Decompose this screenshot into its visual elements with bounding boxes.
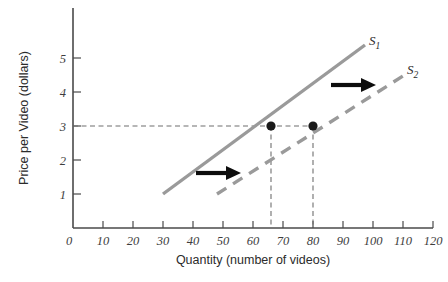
guide-lines-group xyxy=(73,126,313,228)
x-tick-label: 100 xyxy=(364,234,384,248)
point-on-s2 xyxy=(308,121,317,130)
upper-shift-arrow xyxy=(331,78,376,92)
x-axis-title: Quantity (number of videos) xyxy=(176,253,330,267)
y-tick-label: 5 xyxy=(60,52,66,66)
x-tick-label: 0 xyxy=(66,234,73,248)
y-tick-label: 1 xyxy=(60,188,66,202)
x-tick-label: 90 xyxy=(337,234,350,248)
x-tick-label: 40 xyxy=(187,234,200,248)
x-tick-label: 120 xyxy=(424,234,444,248)
lower-shift-arrow xyxy=(196,166,241,180)
curve-label-s2: S2 xyxy=(407,62,419,80)
x-axis-ticks xyxy=(103,221,433,228)
y-axis-title: Price per Video (dollars) xyxy=(17,51,31,185)
point-on-s1 xyxy=(266,121,275,130)
x-tick-label: 50 xyxy=(217,234,230,248)
x-axis-tick-labels: 0 10 20 30 40 50 60 70 80 90 100 110 120 xyxy=(66,234,443,248)
x-tick-label: 110 xyxy=(394,234,413,248)
x-tick-label: 20 xyxy=(127,234,140,248)
x-tick-label: 10 xyxy=(97,234,110,248)
x-tick-label: 60 xyxy=(247,234,260,248)
x-tick-label: 80 xyxy=(307,234,320,248)
y-tick-label: 2 xyxy=(60,154,66,168)
y-tick-label: 4 xyxy=(60,86,66,100)
s1-label-subscript: 1 xyxy=(376,41,381,51)
y-axis-tick-labels: 1 2 3 4 5 xyxy=(59,52,66,202)
x-tick-label: 70 xyxy=(277,234,290,248)
x-tick-label: 30 xyxy=(156,234,170,248)
supply-curve-chart: 0 10 20 30 40 50 60 70 80 90 100 110 120… xyxy=(0,0,448,282)
svg-text:S2: S2 xyxy=(407,62,419,80)
curve-label-s1: S1 xyxy=(369,33,380,51)
chart-canvas: 0 10 20 30 40 50 60 70 80 90 100 110 120… xyxy=(0,0,448,282)
y-tick-label: 3 xyxy=(59,120,66,134)
s2-label-subscript: 2 xyxy=(414,70,419,80)
svg-text:S1: S1 xyxy=(369,33,380,51)
